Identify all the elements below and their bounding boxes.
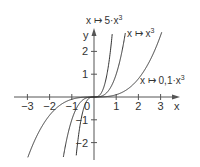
series-label-x3: x ↦ x3 — [127, 27, 155, 39]
y-axis-arrow-icon — [92, 28, 97, 36]
y-tick-label: 1 — [82, 68, 88, 80]
series-label-5x3: x ↦ 5·x3 — [86, 14, 122, 26]
series-labels: x ↦ 5·x3 x ↦ x3 x ↦ 0,1·x3 — [86, 14, 185, 86]
axes: −3−2−1123 −2−112 x y 0 — [14, 28, 180, 160]
x-axis-arrow-icon — [172, 95, 180, 100]
x-tick-label: −1 — [66, 100, 79, 112]
series-label-01x3: x ↦ 0,1·x3 — [140, 74, 185, 86]
x-tick-label: 3 — [158, 100, 164, 112]
x-tick-label: 1 — [113, 100, 119, 112]
cubic-functions-plot: −3−2−1123 −2−112 x y 0 x ↦ 5·x3 x ↦ x3 x… — [0, 0, 200, 167]
y-tick-label: 2 — [82, 45, 88, 57]
x-axis-label: x — [174, 100, 180, 112]
x-tick-label: −3 — [21, 100, 34, 112]
x-tick-label: 2 — [135, 100, 141, 112]
y-axis-label: y — [83, 29, 89, 41]
